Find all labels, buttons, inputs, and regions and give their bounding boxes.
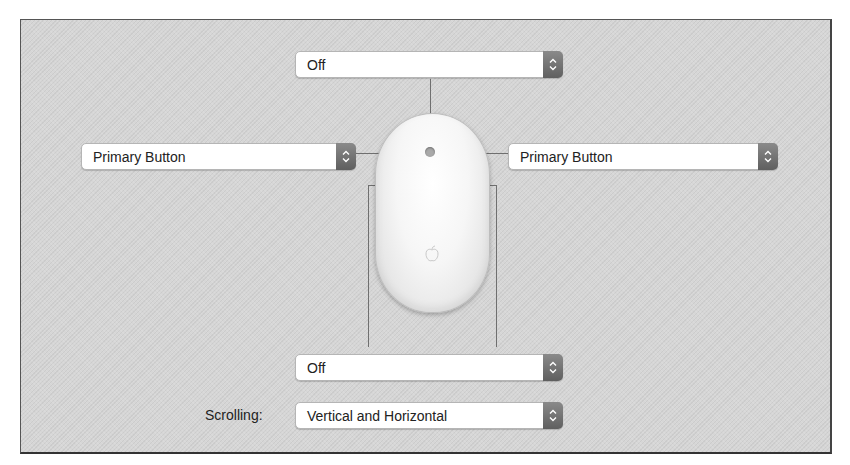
leader-line-bottom-right-v bbox=[496, 185, 497, 347]
up-down-chevron-icon[interactable] bbox=[543, 51, 563, 78]
up-down-chevron-icon[interactable] bbox=[543, 354, 563, 381]
scroll-ball-icon bbox=[425, 147, 435, 157]
apple-logo-icon bbox=[424, 245, 440, 263]
top-button-popup[interactable]: Off bbox=[295, 51, 563, 78]
side-buttons-popup[interactable]: Off bbox=[295, 354, 563, 381]
left-button-value: Primary Button bbox=[93, 149, 186, 165]
scrolling-value: Vertical and Horizontal bbox=[307, 408, 447, 424]
scrolling-label: Scrolling: bbox=[205, 407, 263, 423]
clipped-heading-fragment bbox=[175, 0, 375, 6]
side-buttons-value: Off bbox=[307, 360, 325, 376]
top-button-value: Off bbox=[307, 57, 325, 73]
up-down-chevron-icon[interactable] bbox=[336, 143, 356, 170]
up-down-chevron-icon[interactable] bbox=[758, 143, 778, 170]
left-button-popup[interactable]: Primary Button bbox=[81, 143, 356, 170]
right-button-value: Primary Button bbox=[520, 149, 613, 165]
right-button-popup[interactable]: Primary Button bbox=[508, 143, 778, 170]
up-down-chevron-icon[interactable] bbox=[543, 402, 563, 429]
mouse-illustration bbox=[375, 113, 490, 313]
leader-line-bottom-left-v bbox=[368, 185, 369, 347]
scrolling-popup[interactable]: Vertical and Horizontal bbox=[295, 402, 563, 429]
